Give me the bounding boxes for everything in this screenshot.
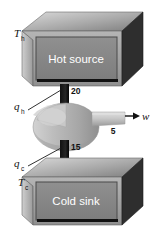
hot-source-label: Hot source — [48, 53, 104, 65]
work-value: 5 — [111, 126, 116, 136]
heat-out-symbol: q — [14, 157, 20, 169]
hot-temperature-label: T h — [14, 27, 25, 42]
cold-temperature-symbol: T — [18, 176, 25, 188]
hot-temperature-symbol: T — [14, 27, 21, 39]
work-symbol: w — [142, 110, 150, 122]
heat-in-label: q h — [14, 100, 25, 115]
heat-out-subscript: c — [21, 165, 25, 172]
work-arrow-icon — [125, 113, 140, 120]
cold-sink-panel-shadow — [37, 219, 118, 222]
heat-out-label: q c — [14, 157, 25, 172]
heat-in-subscript: h — [21, 108, 25, 115]
work-shaft — [92, 112, 125, 126]
hot-source-block: Hot source — [22, 12, 143, 86]
hot-source-panel-shadow — [37, 79, 118, 82]
cold-sink-label: Cold sink — [52, 195, 100, 207]
heat-engine-diagram: Hot source Cold sink T — [0, 0, 151, 235]
hot-temperature-subscript: h — [21, 35, 25, 42]
heat-in-value: 20 — [71, 86, 81, 96]
engine-highlight — [38, 108, 66, 126]
heat-out-value: 15 — [71, 142, 81, 152]
cold-sink-block: Cold sink — [22, 158, 143, 225]
diagram-canvas: Hot source Cold sink T — [0, 0, 151, 235]
heat-in-symbol: q — [14, 100, 20, 112]
